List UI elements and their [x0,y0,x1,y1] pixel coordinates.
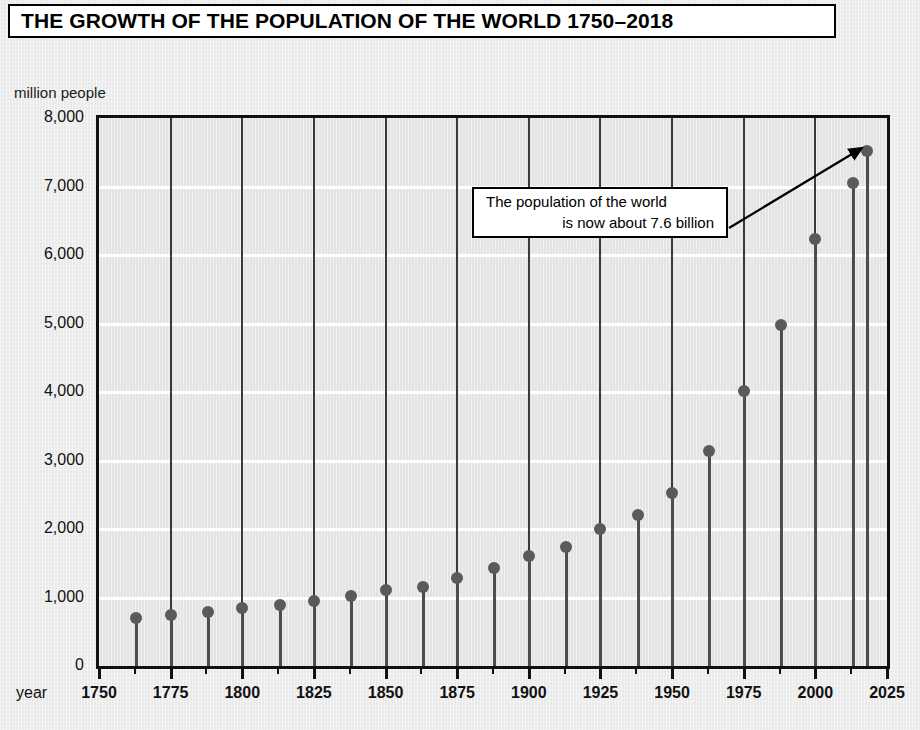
data-point-stem [170,615,173,666]
x-tick-minor [635,666,637,674]
data-point-marker [632,509,644,521]
data-point-marker [236,602,248,614]
data-point-stem [637,515,640,666]
data-point-stem [852,183,855,666]
data-point-marker [451,572,463,584]
gridline [99,391,887,394]
annotation-line-1: The population of the world [474,192,667,212]
y-tick-label: 2,000 [4,519,84,537]
y-axis-unit-caption: million people [14,84,106,101]
x-tick-label: 1850 [368,684,404,702]
x-tick-minor [134,666,136,674]
data-point-marker [165,609,177,621]
data-point-stem [493,568,496,666]
gridline [99,323,887,326]
x-tick-major [98,666,101,679]
data-point-stem [528,556,531,666]
data-point-marker [488,562,500,574]
y-tick-label: 1,000 [4,588,84,606]
y-tick-label: 0 [4,656,84,674]
data-point-marker [345,590,357,602]
data-point-stem [565,547,568,666]
data-point-marker [202,606,214,618]
x-tick-minor [492,666,494,674]
data-point-marker [703,445,715,457]
x-axis-caption: year [16,684,47,702]
gridline [99,254,887,257]
x-tick-major [385,666,388,679]
x-tick-major [814,666,817,679]
x-tick-minor [850,666,852,674]
gridline [99,528,887,531]
data-point-stem [135,618,138,666]
x-tick-label: 1900 [511,684,547,702]
data-point-marker [666,487,678,499]
x-tick-label: 1925 [583,684,619,702]
data-point-marker [274,599,286,611]
data-point-stem [814,239,817,666]
chart-title-box: THE GROWTH OF THE POPULATION OF THE WORL… [8,4,836,38]
x-tick-inner-line [241,118,243,666]
data-point-marker [417,581,429,593]
annotation-callout: The population of the world is now about… [472,187,728,238]
x-tick-inner-line [170,118,172,666]
data-point-marker [775,319,787,331]
data-point-marker [380,584,392,596]
x-tick-major [599,666,602,679]
y-tick-label: 8,000 [4,108,84,126]
data-point-marker [594,523,606,535]
data-point-marker [308,595,320,607]
x-tick-major [313,666,316,679]
x-tick-major [170,666,173,679]
page-title: THE GROWTH OF THE POPULATION OF THE WORL… [10,9,673,33]
data-point-stem [350,596,353,666]
data-point-stem [708,451,711,666]
x-tick-label: 1950 [654,684,690,702]
data-point-marker [560,541,572,553]
data-point-marker [738,385,750,397]
y-tick-label: 7,000 [4,177,84,195]
x-tick-major [456,666,459,679]
x-tick-major [886,666,889,679]
x-tick-label: 1875 [439,684,475,702]
x-tick-label: 2025 [869,684,905,702]
data-point-stem [671,493,674,666]
data-point-marker [523,550,535,562]
data-point-marker [809,233,821,245]
data-point-stem [780,325,783,666]
x-tick-minor [779,666,781,674]
x-tick-minor [277,666,279,674]
gridline [99,460,887,463]
data-point-marker [861,145,873,157]
x-tick-major [671,666,674,679]
x-tick-major [241,666,244,679]
x-tick-label: 1800 [224,684,260,702]
annotation-line-2: is now about 7.6 billion [562,213,726,233]
x-tick-minor [349,666,351,674]
x-tick-minor [707,666,709,674]
data-point-stem [456,578,459,666]
x-tick-minor [420,666,422,674]
y-tick-label: 6,000 [4,245,84,263]
x-tick-minor [564,666,566,674]
x-tick-label: 1775 [153,684,189,702]
x-tick-minor [205,666,207,674]
y-tick-label: 3,000 [4,451,84,469]
data-point-stem [599,529,602,666]
x-tick-label: 1975 [726,684,762,702]
data-point-stem [279,605,282,666]
data-point-stem [313,601,316,666]
x-tick-major [743,666,746,679]
data-point-stem [241,608,244,666]
x-tick-label: 1750 [81,684,117,702]
y-tick-label: 4,000 [4,382,84,400]
data-point-stem [385,590,388,666]
x-tick-label: 1825 [296,684,332,702]
x-tick-major [528,666,531,679]
y-tick-label: 5,000 [4,314,84,332]
data-point-stem [866,151,869,666]
data-point-marker [130,612,142,624]
x-tick-label: 2000 [798,684,834,702]
data-point-marker [847,177,859,189]
data-point-stem [207,612,210,666]
